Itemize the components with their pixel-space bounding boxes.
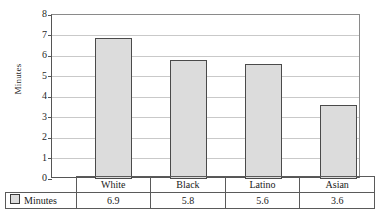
y-axis-tick-mark (48, 97, 52, 98)
bar-asian (320, 105, 357, 179)
table-value-cell: 6.9 (76, 193, 151, 209)
table-row-values: Minutes 6.9 5.8 5.6 3.6 (6, 193, 375, 209)
y-axis-tick-mark (48, 35, 52, 36)
table-header-cell: White (76, 177, 151, 193)
table-header-cell: Asian (300, 177, 375, 193)
table-header-cell: Black (151, 177, 226, 193)
plot-region: Minutes 012345678 (0, 0, 384, 182)
legend-label: Minutes (24, 196, 57, 207)
y-axis-tick-label: 8 (23, 9, 47, 19)
bar-chart-figure: Minutes 012345678 White Black Latino Asi… (0, 0, 384, 215)
plot-area (51, 14, 360, 178)
y-axis-tick-label: 6 (23, 50, 47, 60)
y-axis-tick-label: 2 (23, 132, 47, 142)
table-value-cell: 3.6 (300, 193, 375, 209)
table-row-categories: White Black Latino Asian (6, 177, 375, 193)
table-corner-blank (6, 177, 77, 193)
table-header-cell: Latino (225, 177, 300, 193)
y-axis-tick-mark (48, 76, 52, 77)
bar-black (170, 60, 207, 179)
y-axis-tick-label: 1 (23, 153, 47, 163)
gridline (52, 35, 359, 36)
data-table: White Black Latino Asian Minutes 6.9 5.8… (5, 176, 375, 209)
y-axis-title: Minutes (13, 39, 23, 119)
table-value-cell: 5.8 (151, 193, 226, 209)
table-value-cell: 5.6 (225, 193, 300, 209)
y-axis-tick-label: 3 (23, 112, 47, 122)
y-axis-tick-mark (48, 158, 52, 159)
y-axis-tick-mark (48, 15, 52, 16)
bar-latino (245, 64, 282, 179)
y-axis-tick-mark (48, 56, 52, 57)
legend-cell: Minutes (6, 193, 77, 209)
legend-swatch-icon (10, 194, 20, 204)
bar-white (95, 38, 132, 179)
y-axis-tick-label: 7 (23, 30, 47, 40)
y-axis-tick-label: 5 (23, 71, 47, 81)
y-axis-tick-label: 4 (23, 91, 47, 101)
y-axis-tick-mark (48, 117, 52, 118)
y-axis-tick-mark (48, 138, 52, 139)
